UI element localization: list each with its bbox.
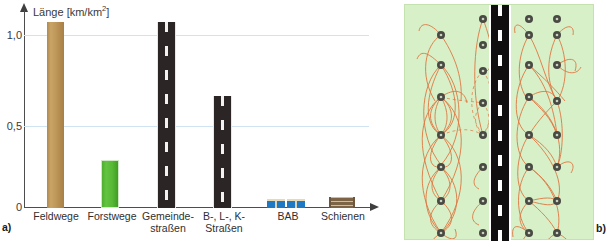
network-links-left [417,19,492,239]
cat-label-schienen-line1: Schienen [306,210,380,222]
bar-blk-strassen-rect [213,96,232,208]
bar-schienen-rect [329,197,355,208]
y-axis-title: Länge [km/km2] [33,4,109,18]
panel-b-label: b) [596,222,606,234]
panel-a-label: a) [2,221,11,233]
bar-blk-strassen [208,96,236,208]
y-tick-label-05: 0,5 [0,120,22,132]
panel-b-network-diagram: b) [404,4,594,240]
bar-bab [267,199,309,208]
y-tick-label-0: 0 [0,201,22,213]
bar-forstwege [97,160,123,208]
network-links-right [513,25,581,239]
gridline-0-5 [24,126,369,127]
y-axis-ticks: 1,0 0,5 0 [0,0,22,243]
bar-forstwege-rect [101,160,119,208]
cat-label-blk-strassen-line1: B-, L-, K- [186,210,262,222]
panel-b-background [404,4,594,240]
panel-b-motorway [489,5,511,241]
bar-gemeindestrassen-rect [157,22,176,208]
bar-schienen [327,197,357,208]
bar-bab-rect-right [287,199,305,208]
y-tick-label-1: 1,0 [0,29,22,41]
y-axis-line [24,10,25,208]
bar-gemeindestrassen [152,22,180,208]
bar-bab-rect-left [267,199,285,208]
figure: Länge [km/km2] 1,0 0,5 0 [0,0,612,243]
cat-label-blk-strassen: B-, L-, K- Straßen [186,210,262,234]
bar-feldwege [42,22,68,208]
gridline-1-0 [24,35,369,36]
panel-a-bar-chart: Länge [km/km2] 1,0 0,5 0 [0,0,396,243]
cat-label-schienen: Schienen [306,210,380,222]
x-axis-line [24,207,371,208]
cat-label-blk-strassen-line2: Straßen [186,222,262,234]
bar-feldwege-rect [47,22,64,208]
